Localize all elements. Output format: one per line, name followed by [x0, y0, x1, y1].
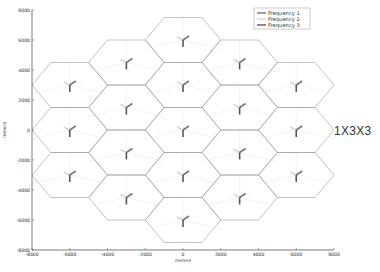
sector-boundary	[145, 175, 183, 184]
sector-frequency-2	[120, 150, 126, 153]
sector-frequency-1	[70, 126, 76, 130]
sector-frequency-1	[183, 36, 189, 40]
sector-frequency-2	[234, 60, 240, 63]
x-axis-label: meters	[175, 258, 192, 263]
reuse-pattern-label: 1X3X3	[334, 124, 372, 138]
sector-frequency-2	[177, 127, 183, 130]
sector-boundary	[89, 108, 127, 117]
sector-boundary	[259, 130, 297, 139]
sector-frequency-2	[234, 195, 240, 198]
sector-frequency-2	[234, 105, 240, 108]
sector-frequency-1	[240, 59, 246, 63]
x-tick-label: 8000	[328, 252, 340, 257]
sector-boundary	[202, 153, 240, 162]
sector-frequency-1	[183, 126, 189, 130]
sector-frequency-2	[290, 127, 296, 130]
sector-boundary	[145, 130, 183, 139]
y-tick-label: -2000	[17, 158, 30, 163]
y-tick-label: 8000	[18, 8, 30, 13]
sector-frequency-2	[234, 150, 240, 153]
sector-boundary	[296, 130, 334, 139]
sector-boundary	[89, 198, 127, 207]
sector-frequency-1	[296, 126, 302, 130]
hex-cell-plot: -8000-6000-4000-200002000400060008000-80…	[0, 0, 380, 272]
sector-frequency-2	[177, 37, 183, 40]
sector-boundary	[126, 153, 164, 162]
sector-boundary	[32, 175, 70, 184]
x-tick-label: 2000	[215, 252, 227, 257]
sector-boundary	[70, 85, 108, 94]
sector-boundary	[70, 130, 108, 139]
sector-frequency-1	[126, 59, 132, 63]
sector-boundary	[70, 175, 108, 184]
sector-boundary	[240, 153, 278, 162]
sector-boundary	[126, 198, 164, 207]
sector-boundary	[296, 175, 334, 184]
sector-frequency-1	[296, 171, 302, 175]
y-tick-label: 4000	[18, 68, 30, 73]
sector-frequency-2	[177, 82, 183, 85]
sector-boundary	[89, 63, 127, 72]
y-tick-label: 2000	[18, 98, 30, 103]
x-tick-label: 6000	[290, 252, 302, 257]
sector-frequency-1	[296, 81, 302, 85]
sector-frequency-2	[120, 105, 126, 108]
sector-boundary	[145, 85, 183, 94]
sector-frequency-1	[126, 194, 132, 198]
sector-boundary	[126, 63, 164, 72]
sector-frequency-1	[183, 81, 189, 85]
y-tick-label: -8000	[17, 248, 30, 253]
sector-boundary	[259, 175, 297, 184]
sector-boundary	[240, 63, 278, 72]
x-tick-label: 4000	[253, 252, 265, 257]
sector-boundary	[202, 63, 240, 72]
legend-entry: Frequency 3	[268, 22, 300, 29]
sector-frequency-1	[240, 149, 246, 153]
sector-frequency-1	[70, 171, 76, 175]
x-tick-label: -8000	[25, 252, 38, 257]
x-tick-label: 0	[182, 252, 185, 257]
plot-area	[32, 18, 334, 243]
sector-frequency-2	[177, 217, 183, 220]
sector-frequency-2	[290, 172, 296, 175]
sector-frequency-1	[126, 149, 132, 153]
sector-boundary	[32, 130, 70, 139]
sector-boundary	[183, 175, 221, 184]
sector-boundary	[202, 198, 240, 207]
sector-frequency-2	[64, 82, 70, 85]
sector-boundary	[202, 108, 240, 117]
sector-frequency-1	[240, 194, 246, 198]
legend: Frequency 1Frequency 2Frequency 3	[254, 8, 310, 29]
sector-boundary	[183, 220, 221, 229]
sector-boundary	[259, 85, 297, 94]
sector-frequency-1	[240, 104, 246, 108]
sector-frequency-1	[126, 104, 132, 108]
sector-frequency-1	[70, 81, 76, 85]
sector-boundary	[145, 220, 183, 229]
sector-frequency-2	[120, 195, 126, 198]
sector-frequency-2	[290, 82, 296, 85]
sector-frequency-1	[183, 171, 189, 175]
y-tick-label: 6000	[18, 38, 30, 43]
y-tick-label: -6000	[17, 218, 30, 223]
sector-boundary	[240, 198, 278, 207]
sector-frequency-1	[183, 216, 189, 220]
sector-boundary	[183, 130, 221, 139]
y-axis-label: meters	[2, 121, 7, 138]
x-tick-label: -4000	[101, 252, 114, 257]
axes: -8000-6000-4000-200002000400060008000-80…	[2, 8, 340, 263]
sector-boundary	[296, 85, 334, 94]
sector-boundary	[89, 153, 127, 162]
sector-boundary	[183, 85, 221, 94]
sector-boundary	[240, 108, 278, 117]
x-tick-label: -6000	[63, 252, 76, 257]
sector-frequency-2	[64, 172, 70, 175]
sector-boundary	[145, 40, 183, 49]
sector-frequency-2	[120, 60, 126, 63]
sector-boundary	[183, 40, 221, 49]
y-tick-label: 0	[27, 128, 30, 133]
x-tick-label: -2000	[139, 252, 152, 257]
y-tick-label: -4000	[17, 188, 30, 193]
sector-frequency-2	[177, 172, 183, 175]
sector-frequency-2	[64, 127, 70, 130]
